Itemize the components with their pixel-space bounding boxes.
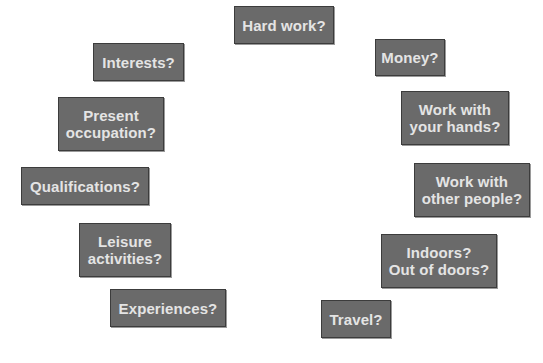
box-label-line: Travel? bbox=[329, 311, 382, 328]
box-label-line: your hands? bbox=[409, 118, 500, 135]
box-label-line: Work with bbox=[436, 173, 508, 190]
box-label-line: Indoors? bbox=[407, 244, 472, 261]
box-label-line: occupation? bbox=[66, 124, 156, 141]
box-label-line: Hard work? bbox=[242, 17, 326, 34]
box-present-occupation: Present occupation? bbox=[58, 97, 164, 151]
box-qualifications: Qualifications? bbox=[21, 167, 149, 205]
box-leisure-activities: Leisure activities? bbox=[79, 223, 171, 277]
box-hard-work: Hard work? bbox=[234, 6, 334, 44]
box-experiences: Experiences? bbox=[110, 289, 226, 327]
box-label-line: Work with bbox=[419, 101, 491, 118]
box-interests: Interests? bbox=[93, 43, 184, 81]
box-label-line: Present bbox=[83, 107, 139, 124]
box-label-line: Money? bbox=[381, 49, 438, 66]
box-work-with-people: Work with other people? bbox=[414, 163, 530, 217]
box-label-line: other people? bbox=[422, 190, 522, 207]
box-work-with-hands: Work with your hands? bbox=[401, 91, 509, 145]
box-travel: Travel? bbox=[321, 300, 391, 338]
box-label-line: Qualifications? bbox=[30, 178, 140, 195]
box-money: Money? bbox=[375, 39, 445, 76]
box-label-line: Experiences? bbox=[119, 300, 218, 317]
box-label-line: activities? bbox=[88, 250, 162, 267]
box-label-line: Out of doors? bbox=[389, 261, 489, 278]
box-label-line: Leisure bbox=[98, 233, 152, 250]
box-label-line: Interests? bbox=[102, 54, 175, 71]
box-indoors-outdoors: Indoors? Out of doors? bbox=[381, 234, 497, 288]
